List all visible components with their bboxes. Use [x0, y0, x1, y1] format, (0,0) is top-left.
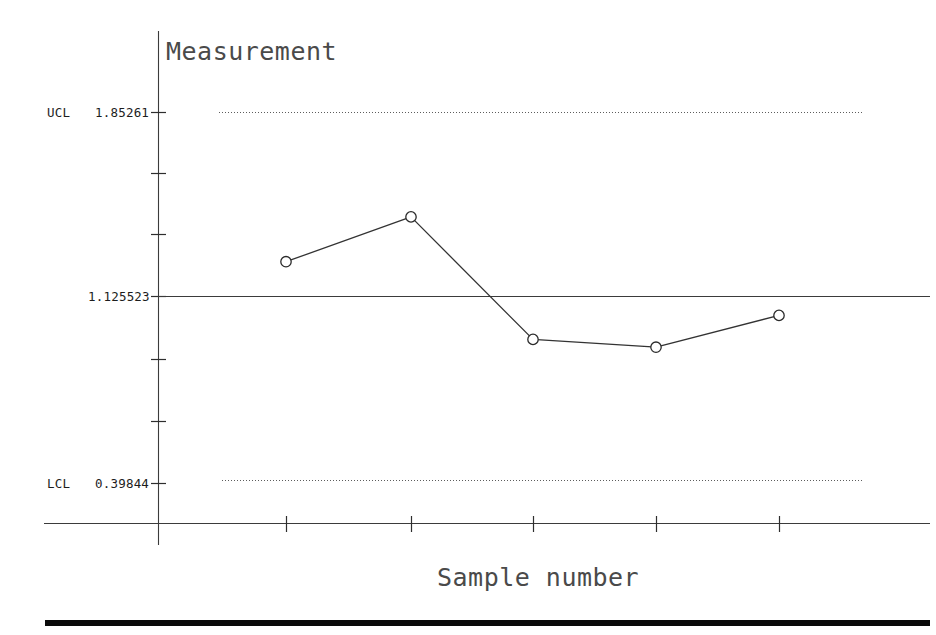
ucl-value-label: 1.85261: [95, 105, 149, 120]
data-point-sample-1[interactable]: [281, 257, 291, 267]
data-point-sample-5[interactable]: [774, 310, 784, 320]
control-chart-page: Measurement Sample number UCL 1.85261 1.…: [0, 0, 936, 635]
measurement-series-line: [286, 217, 779, 347]
data-point-sample-2[interactable]: [406, 212, 416, 222]
control-chart-figure: Measurement Sample number UCL 1.85261 1.…: [0, 0, 936, 635]
axes-group: [44, 31, 930, 545]
data-point-sample-4[interactable]: [651, 342, 661, 352]
y-axis-title: Measurement: [166, 37, 337, 66]
data-series-group: [281, 212, 784, 353]
lcl-value-label: 0.39844: [95, 476, 149, 491]
data-point-sample-3[interactable]: [528, 334, 538, 344]
control-limit-lines: [158, 113, 930, 481]
ucl-tag-label: UCL: [47, 105, 70, 120]
footer-divider-rule: [45, 620, 930, 626]
lcl-tag-label: LCL: [47, 476, 70, 491]
center-value-label: 1.125523: [88, 289, 150, 304]
x-axis-title: Sample number: [437, 563, 639, 592]
